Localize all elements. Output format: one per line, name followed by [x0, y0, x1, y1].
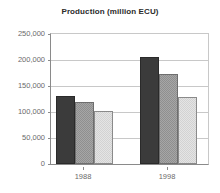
- bar-group-1998: [140, 34, 197, 164]
- bar-face: [140, 57, 159, 164]
- y-axis-tick-label: 250,000: [0, 29, 45, 38]
- plot-area: [50, 33, 209, 165]
- bar[interactable]: [159, 74, 178, 164]
- bar[interactable]: [178, 97, 197, 164]
- bar[interactable]: [140, 57, 159, 164]
- y-axis-tick: [48, 164, 51, 165]
- y-axis-tick: [48, 60, 51, 61]
- x-axis-labels: 19881998: [0, 167, 220, 181]
- y-axis-tick-label: 50,000: [0, 133, 45, 142]
- y-axis-tick: [48, 138, 51, 139]
- y-axis-tick: [48, 86, 51, 87]
- y-axis-tick: [48, 112, 51, 113]
- bar-chart: Production (million ECU) 050,000100,0001…: [0, 0, 220, 193]
- bar-group-1988: [56, 34, 113, 164]
- y-axis-tick-label: 150,000: [0, 81, 45, 90]
- bar-face: [159, 74, 178, 164]
- chart-title: Production (million ECU): [0, 7, 220, 16]
- x-axis-tick: [83, 167, 84, 170]
- bar-face: [94, 111, 113, 164]
- x-axis-tick: [167, 167, 168, 170]
- bar-face: [56, 96, 75, 164]
- x-axis-tick-label: 1988: [75, 172, 92, 181]
- y-axis-tick: [48, 34, 51, 35]
- y-axis-tick-label: 200,000: [0, 55, 45, 64]
- y-axis-tick-label: 100,000: [0, 107, 45, 116]
- bar-face: [178, 97, 197, 164]
- x-axis-tick-label: 1998: [159, 172, 176, 181]
- bar-face: [75, 102, 94, 164]
- bar[interactable]: [75, 102, 94, 164]
- bar[interactable]: [94, 111, 113, 164]
- bar[interactable]: [56, 96, 75, 164]
